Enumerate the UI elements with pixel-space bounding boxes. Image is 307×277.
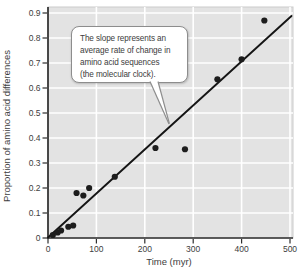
y-tick-label: 0.2 (29, 183, 41, 193)
x-tick-label: 300 (186, 244, 200, 254)
data-point (261, 17, 267, 23)
callout-tail (144, 80, 178, 128)
data-point (182, 146, 188, 152)
x-tick-label: 400 (235, 244, 249, 254)
data-point (70, 222, 76, 228)
y-tick-label: 0.3 (29, 158, 41, 168)
data-point (73, 190, 79, 196)
annotation-callout: The slope represents an average rate of … (71, 26, 188, 83)
annotation-line: average rate of change in (80, 45, 181, 57)
x-tick-label: 100 (89, 244, 103, 254)
x-axis-title: Time (myr) (146, 256, 192, 267)
x-tick-label: 0 (46, 244, 51, 254)
data-point (239, 56, 245, 62)
annotation-line: amino acid sequences (80, 57, 181, 69)
data-point (86, 185, 92, 191)
data-point (214, 76, 220, 82)
annotation-line: The slope represents an (80, 33, 181, 45)
data-point (58, 227, 64, 233)
x-tick-label: 200 (138, 244, 152, 254)
y-tick-label: 0.7 (29, 58, 41, 68)
y-axis-title: Proportion of amino acid differences (1, 50, 12, 202)
data-point (152, 145, 158, 151)
y-tick-label: 0.5 (29, 108, 41, 118)
y-tick-label: 0.6 (29, 83, 41, 93)
y-tick-label: 0.9 (29, 8, 41, 18)
y-tick-label: 0 (36, 233, 41, 243)
y-tick-label: 0.4 (29, 133, 41, 143)
data-point (80, 192, 86, 198)
molecular-clock-figure: 010020030040050000.10.20.30.40.50.60.70.… (0, 0, 307, 277)
x-tick-label: 500 (283, 244, 297, 254)
data-point (112, 174, 118, 180)
y-tick-label: 0.8 (29, 33, 41, 43)
y-tick-label: 0.1 (29, 208, 41, 218)
